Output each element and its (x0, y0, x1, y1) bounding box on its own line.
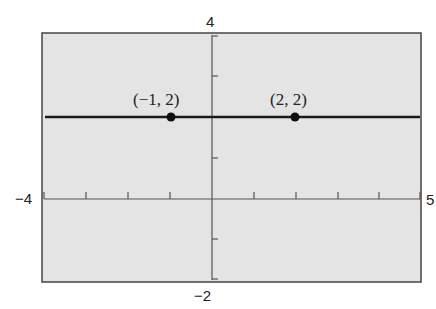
point-2-2 (291, 113, 300, 122)
point-label-2-2: (2, 2) (270, 90, 307, 109)
x-min-label: −4 (15, 190, 32, 207)
point-label-neg1-2: (−1, 2) (133, 90, 179, 109)
x-max-label: 5 (426, 191, 434, 208)
y-max-label: 4 (206, 13, 214, 30)
plot-frame (42, 33, 421, 282)
chart: (−1, 2) (2, 2) 4 −2 −4 5 (0, 0, 436, 309)
point-neg1-2 (167, 113, 176, 122)
y-min-label: −2 (194, 287, 211, 304)
